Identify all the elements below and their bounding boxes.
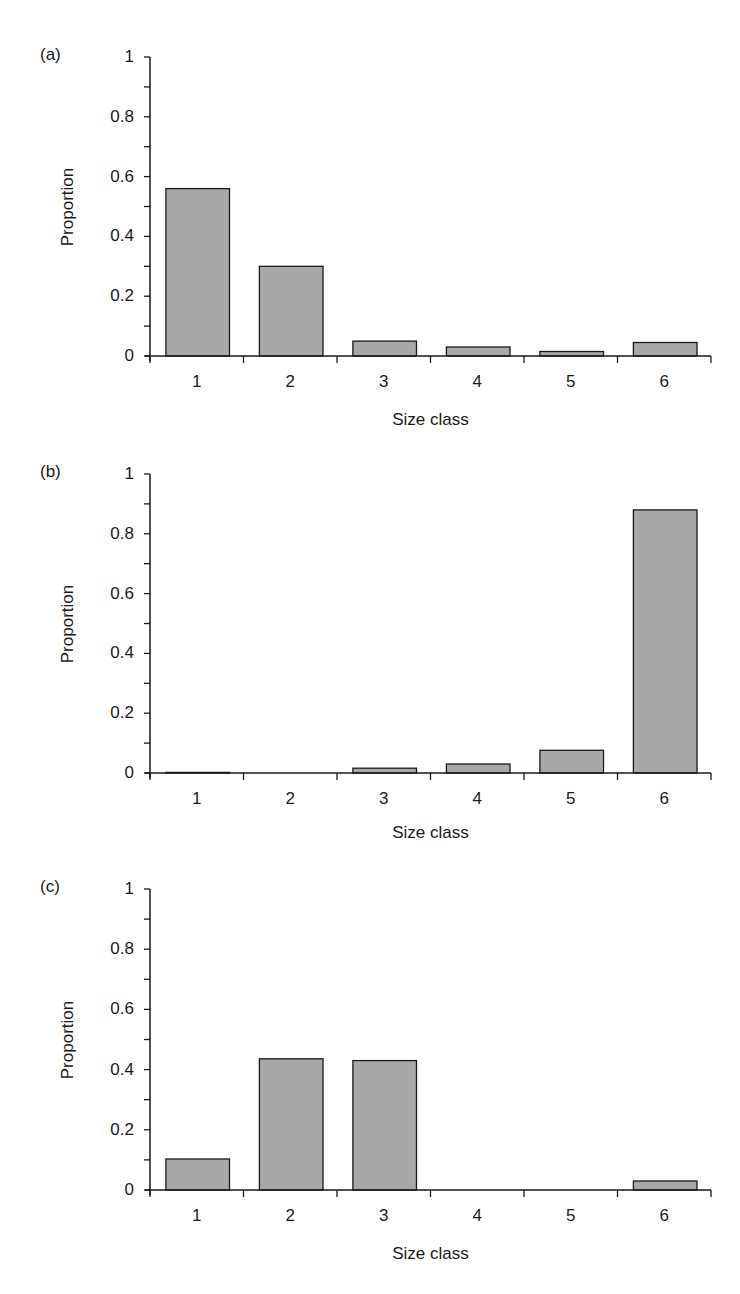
bar-size-class-2 [259, 1059, 323, 1190]
x-tick-label: 3 [369, 1206, 399, 1226]
x-tick-label: 2 [275, 1206, 305, 1226]
bar-size-class-1 [166, 1159, 230, 1190]
bar-chart-plot [0, 0, 740, 1294]
x-tick-label: 1 [182, 1206, 212, 1226]
y-tick-label: 0.4 [94, 1060, 134, 1080]
y-tick-label: 0 [94, 1180, 134, 1200]
y-tick-label: 0.6 [94, 999, 134, 1019]
bar-size-class-6 [633, 1181, 697, 1190]
bar-size-class-3 [353, 1061, 417, 1190]
cropped-caption-fragment [20, 1282, 720, 1294]
y-tick-label: 0.8 [94, 939, 134, 959]
y-tick-label: 1 [94, 879, 134, 899]
x-tick-label: 5 [556, 1206, 586, 1226]
x-axis-label: Size class [331, 1244, 531, 1264]
y-tick-label: 0.2 [94, 1120, 134, 1140]
chart-panel-c: (c)Proportion00.20.40.60.81123456Size cl… [0, 0, 740, 430]
x-tick-label: 4 [462, 1206, 492, 1226]
x-tick-label: 6 [649, 1206, 679, 1226]
